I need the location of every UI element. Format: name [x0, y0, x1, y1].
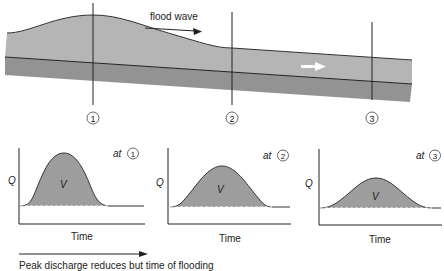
- section-marker-2: 2: [226, 112, 238, 124]
- caption-text: Peak discharge reduces but time of flood…: [19, 260, 214, 271]
- svg-text:2: 2: [281, 152, 286, 161]
- svg-text:Time: Time: [369, 234, 391, 245]
- flood-wave-diagram: 1 2 3 flood wave Q V Time at 1 Q V: [0, 0, 444, 271]
- svg-text:3: 3: [433, 152, 438, 161]
- flood-wave-arrowhead-icon: [193, 28, 202, 35]
- svg-text:at: at: [263, 150, 273, 161]
- hydrograph-1: Q V Time at 1: [8, 148, 145, 242]
- svg-text:Q: Q: [156, 177, 164, 188]
- hydrograph-2: Q V Time at 2: [156, 148, 291, 244]
- svg-text:2: 2: [229, 114, 234, 124]
- section-marker-1: 1: [87, 112, 99, 124]
- svg-text:at: at: [113, 148, 123, 159]
- svg-text:1: 1: [90, 114, 95, 124]
- section-marker-3: 3: [366, 112, 378, 124]
- flood-wave-label: flood wave: [150, 11, 198, 22]
- svg-text:1: 1: [131, 150, 136, 159]
- svg-text:Time: Time: [219, 233, 241, 244]
- svg-text:at: at: [416, 150, 426, 161]
- hydrograph-3: Q V Time at 3: [305, 149, 442, 245]
- svg-text:Q: Q: [8, 175, 16, 186]
- svg-text:Q: Q: [305, 178, 313, 189]
- caption-arrowhead-icon: [139, 251, 148, 257]
- svg-text:3: 3: [369, 114, 374, 124]
- svg-text:Time: Time: [71, 231, 93, 242]
